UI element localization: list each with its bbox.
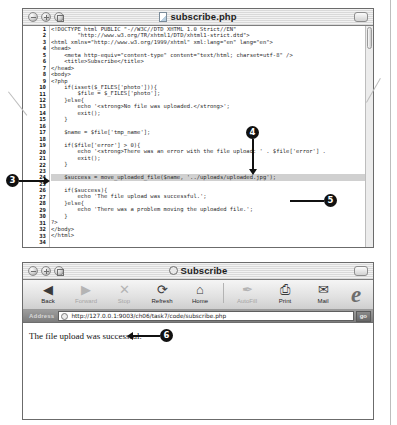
- line-number-gutter: 1234567891011121314151617181920212223242…: [23, 26, 50, 247]
- toolbar-button-home[interactable]: ⌂Home: [181, 280, 219, 304]
- callout-4: 4: [246, 126, 259, 139]
- go-button[interactable]: go: [356, 311, 371, 322]
- toolbar-button-label: AutoFill: [237, 298, 257, 304]
- code-line[interactable]: [51, 238, 365, 244]
- browser-toolbar: ◀Back▶Forward✕Stop⟳Refresh⌂Home✒AutoFill…: [23, 280, 373, 310]
- mail-envelope-icon: ✉: [304, 282, 342, 298]
- toolbar-separator: [223, 283, 224, 303]
- callout-4-leader: [252, 139, 254, 170]
- browser-collapse-button[interactable]: [354, 266, 368, 276]
- code-area: 1234567891011121314151617181920212223242…: [23, 26, 373, 247]
- browser-title-text: Subscribe: [181, 265, 228, 276]
- back-arrow-icon: ◀: [29, 282, 67, 298]
- callout-4-arrowhead: [249, 169, 257, 175]
- printer-icon: ⎙: [266, 282, 304, 298]
- stop-x-icon: ✕: [105, 282, 143, 298]
- toolbar-button-refresh[interactable]: ⟳Refresh: [143, 280, 181, 304]
- callout-5-leader: [290, 200, 324, 202]
- editor-collapse-button[interactable]: [354, 12, 368, 22]
- callout-6-leader: [133, 335, 160, 337]
- toolbar-button-label: Refresh: [151, 298, 172, 304]
- editor-title: subscribe.php: [23, 11, 373, 22]
- callout-3: 3: [6, 174, 19, 187]
- address-label: Address: [25, 313, 58, 319]
- browser-titlebar[interactable]: Subscribe: [23, 263, 373, 280]
- code-editor-window: subscribe.php 12345678910111213141516171…: [22, 8, 374, 248]
- autofill-pen-icon: ✒: [228, 282, 266, 298]
- refresh-icon: ⟳: [143, 282, 181, 298]
- home-icon: ⌂: [181, 282, 219, 298]
- editor-vertical-scrollbar[interactable]: [365, 26, 373, 247]
- toolbar-button-label: Stop: [118, 298, 130, 304]
- forward-arrow-icon: ▶: [67, 282, 105, 298]
- toolbar-button-label: Forward: [75, 298, 97, 304]
- internet-explorer-logo: e: [344, 283, 368, 307]
- address-value: http://127.0.0.1:9003/ch06/task7/code/su…: [71, 313, 226, 319]
- document-icon: [159, 12, 167, 22]
- page-content: The file upload was successful.: [23, 324, 373, 419]
- editor-titlebar[interactable]: subscribe.php: [23, 9, 373, 26]
- toolbar-button-mail[interactable]: ✉Mail: [304, 280, 342, 304]
- toolbar-button-label: Print: [279, 298, 291, 304]
- browser-title: Subscribe: [23, 265, 373, 276]
- callout-3-leader: [19, 180, 45, 182]
- browser-window: Subscribe ◀Back▶Forward✕Stop⟳Refresh⌂Hom…: [22, 262, 374, 420]
- callout-6-arrowhead: [127, 332, 133, 340]
- toolbar-button-label: Home: [192, 298, 208, 304]
- toolbar-button-forward: ▶Forward: [67, 280, 105, 304]
- globe-icon: [61, 313, 68, 320]
- toolbar-button-label: Mail: [317, 298, 328, 304]
- callout-5: 5: [324, 194, 337, 207]
- code-text[interactable]: <!DOCTYPE html PUBLIC "-//W3C//DTD XHTML…: [51, 26, 365, 247]
- ie-page-icon: [169, 266, 178, 275]
- toolbar-button-back[interactable]: ◀Back: [29, 280, 67, 304]
- toolbar-button-autofill: ✒AutoFill: [228, 280, 266, 304]
- editor-scroll-thumb[interactable]: [367, 27, 372, 49]
- address-bar: Address http://127.0.0.1:9003/ch06/task7…: [23, 310, 373, 323]
- callout-3-arrowhead: [44, 177, 50, 185]
- line-number: 34: [23, 239, 49, 245]
- upload-result-message: The file upload was successful.: [29, 331, 373, 341]
- code-line[interactable]: echo '<strong>There was an error with th…: [51, 148, 365, 154]
- toolbar-button-stop: ✕Stop: [105, 280, 143, 304]
- editor-title-text: subscribe.php: [170, 11, 236, 22]
- callout-6: 6: [160, 329, 173, 342]
- address-input[interactable]: http://127.0.0.1:9003/ch06/task7/code/su…: [58, 311, 353, 321]
- guide-line-right-edge: [390, 0, 391, 425]
- toolbar-button-print[interactable]: ⎙Print: [266, 280, 304, 304]
- toolbar-button-label: Back: [41, 298, 54, 304]
